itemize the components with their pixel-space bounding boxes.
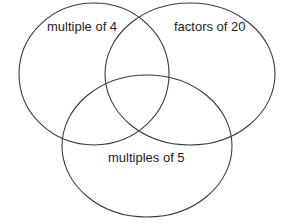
venn-diagram [0,0,293,224]
set-label-factors-of-20: factors of 20 [174,20,246,33]
set-label-multiples-of-5: multiples of 5 [108,151,185,164]
set-label-multiple-of-4: multiple of 4 [47,20,117,33]
set-ellipse-multiples-of-5 [62,75,232,217]
